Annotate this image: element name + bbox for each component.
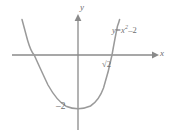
x-axis-label: x xyxy=(160,49,164,58)
equation-label: y=x2–2 xyxy=(112,24,137,34)
y-intercept-label: –2 xyxy=(56,102,66,112)
math-graph-figure: y x y=x2–2 √2 –2 xyxy=(0,0,174,132)
y-axis-label: y xyxy=(80,3,84,12)
equation-constant: –2 xyxy=(128,25,137,35)
root-label-sqrt2: √2 xyxy=(102,60,111,69)
x-axis-arrow-icon xyxy=(152,52,159,59)
y-axis-arrow-icon xyxy=(75,14,82,21)
graph-canvas xyxy=(0,0,174,132)
